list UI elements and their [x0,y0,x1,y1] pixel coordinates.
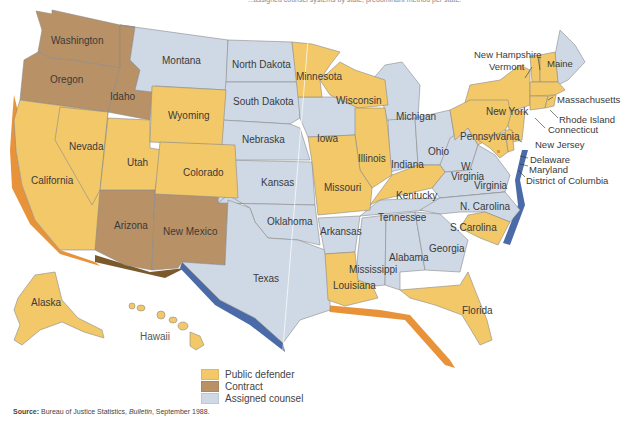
legend-item-assigned-counsel: Assigned counsel [201,393,303,404]
label-tennessee: Tennessee [378,213,426,223]
legend-swatch-assigned-counsel [201,393,219,404]
label-arizona: Arizona [114,221,148,231]
label-district-of-columbia: District of Columbia [526,176,608,186]
legend-swatch-contract [201,381,219,392]
label-virginia: Virginia [474,181,507,191]
legend-item-public-defender: Public defender [201,369,303,380]
source-text-before: Bureau of Justice Statistics, [39,408,129,415]
label-colorado: Colorado [183,168,224,178]
label-georgia: Georgia [429,244,465,254]
label-louisiana: Louisiana [333,281,376,291]
legend-swatch-public-defender [201,369,219,380]
us-map [0,0,628,424]
state-alaska[interactable] [14,272,104,345]
label-oregon: Oregon [50,75,83,85]
label-nevada: Nevada [69,142,103,152]
label-missouri: Missouri [324,183,361,193]
label-maryland: Maryland [529,165,568,175]
label-ohio: Ohio [428,147,449,157]
label-north-dakota: North Dakota [232,60,291,70]
legend-label-public-defender: Public defender [225,369,295,380]
label-utah: Utah [127,158,148,168]
label-new-york: New York [486,107,528,117]
map-legend: Public defender Contract Assigned counse… [201,369,303,405]
label-pennsylvania: Pennsylvania [460,132,519,142]
label-washington: Washington [51,36,103,46]
label-minnesota: Minnesota [296,72,342,82]
label-south-dakota: South Dakota [233,97,294,107]
label-new-mexico: New Mexico [163,227,217,237]
label-maine: Maine [547,59,573,69]
label-kansas: Kansas [261,178,294,188]
label-illinois: Illinois [358,154,386,164]
source-prefix: Source: [13,408,39,415]
label-massachusetts: Massachusetts [557,95,620,105]
label-texas: Texas [253,274,279,284]
label-kentucky: Kentucky [396,191,437,201]
label-iowa: Iowa [317,134,338,144]
label-alaska: Alaska [31,298,61,308]
label-montana: Montana [162,56,201,66]
legend-label-contract: Contract [225,381,263,392]
label-wyoming: Wyoming [168,111,210,121]
label-mississippi: Mississippi [349,265,397,275]
label-vermont: Vermont [489,62,524,72]
label-idaho: Idaho [110,92,135,102]
source-publication: Bulletin [129,408,152,415]
label-new-hampshire: New Hampshire [474,50,542,60]
label-hawaii: Hawaii [140,332,170,342]
gulf-shadow [325,305,455,368]
label-indiana: Indiana [391,160,424,170]
label-florida: Florida [462,306,493,316]
state-district-of-columbia[interactable] [497,150,500,153]
legend-item-contract: Contract [201,381,303,392]
label-wisconsin: Wisconsin [336,96,382,106]
label-oklahoma: Oklahoma [267,217,313,227]
label-new-jersey: New Jersey [535,140,585,150]
label-south-carolina: S.Carolina [450,223,497,233]
label-arkansas: Arkansas [320,227,362,237]
label-connecticut: Connecticut [548,125,598,135]
source-citation: Source: Bureau of Justice Statistics, Bu… [13,408,210,415]
label-north-carolina: N. Carolina [460,202,510,212]
label-california: California [31,176,73,186]
state-hawaii[interactable] [129,303,204,350]
label-alabama: Alabama [389,253,428,263]
source-text-after: , September 1988. [152,408,210,415]
label-nebraska: Nebraska [242,135,285,145]
legend-label-assigned-counsel: Assigned counsel [225,393,303,404]
label-michigan: Michigan [396,112,436,122]
